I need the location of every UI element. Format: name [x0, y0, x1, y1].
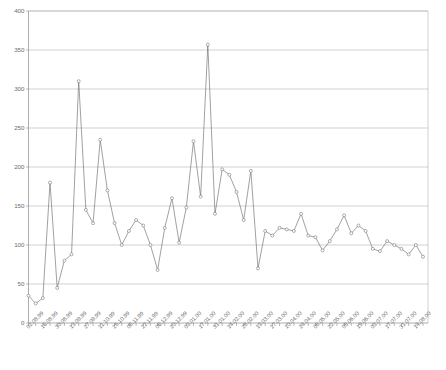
data-point-marker [84, 208, 87, 211]
data-point-marker [163, 226, 166, 229]
data-point-marker [106, 189, 109, 192]
data-point-marker [314, 236, 317, 239]
data-point-marker [127, 229, 130, 232]
data-point-marker [99, 138, 102, 141]
data-point-marker [242, 219, 245, 222]
data-point-marker [414, 244, 417, 247]
data-point-marker [135, 219, 138, 222]
data-point-marker [407, 253, 410, 256]
y-axis-label: 250 [14, 124, 25, 131]
data-point-marker [357, 224, 360, 227]
data-point-marker [27, 294, 30, 297]
data-point-marker [70, 253, 73, 256]
data-line-series-1 [29, 45, 424, 304]
data-point-marker [41, 297, 44, 300]
data-point-marker [77, 80, 80, 83]
data-point-marker [213, 212, 216, 215]
data-point-marker [178, 241, 181, 244]
data-point-marker [192, 140, 195, 143]
data-point-marker [343, 214, 346, 217]
line-chart: 05010015020025030035040002.08.9916.08.99… [0, 0, 446, 370]
data-point-marker [56, 286, 59, 289]
data-point-marker [206, 43, 209, 46]
data-point-marker [235, 190, 238, 193]
data-point-marker [34, 302, 37, 305]
y-axis-label: 100 [14, 241, 25, 248]
data-point-marker [49, 181, 52, 184]
y-axis-label: 150 [14, 202, 25, 209]
data-point-marker [271, 234, 274, 237]
data-point-marker [156, 268, 159, 271]
data-point-marker [393, 244, 396, 247]
data-point-marker [300, 212, 303, 215]
data-point-marker [307, 234, 310, 237]
y-axis-label: 400 [14, 7, 25, 14]
data-point-marker [321, 249, 324, 252]
y-axis-label: 300 [14, 85, 25, 92]
data-point-marker [249, 169, 252, 172]
y-axis-label: 50 [18, 280, 25, 287]
data-point-marker [350, 232, 353, 235]
data-point-marker [170, 197, 173, 200]
data-point-marker [328, 240, 331, 243]
data-point-marker [335, 228, 338, 231]
data-point-marker [185, 206, 188, 209]
data-point-marker [142, 224, 145, 227]
data-point-marker [386, 240, 389, 243]
data-point-marker [278, 226, 281, 229]
data-point-marker [422, 255, 425, 258]
data-point-marker [371, 247, 374, 250]
data-point-marker [364, 229, 367, 232]
data-point-marker [149, 244, 152, 247]
data-point-marker [228, 173, 231, 176]
data-point-marker [221, 168, 224, 171]
data-point-marker [400, 247, 403, 250]
y-axis-label: 350 [14, 46, 25, 53]
data-point-marker [120, 244, 123, 247]
data-point-marker [285, 228, 288, 231]
data-point-marker [378, 250, 381, 253]
chart-canvas: 05010015020025030035040002.08.9916.08.99… [0, 0, 446, 370]
y-axis-label: 200 [14, 163, 25, 170]
data-point-marker [63, 259, 66, 262]
data-point-marker [199, 195, 202, 198]
data-point-marker [113, 222, 116, 225]
data-point-marker [292, 229, 295, 232]
data-point-marker [257, 267, 260, 270]
data-point-marker [92, 222, 95, 225]
data-point-marker [264, 229, 267, 232]
